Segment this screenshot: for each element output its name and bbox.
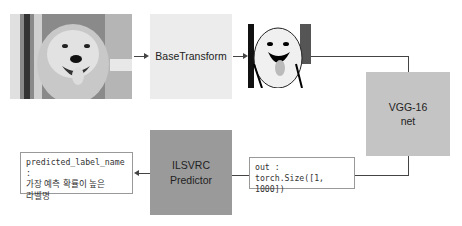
arrowhead-icon [144, 53, 149, 59]
vgg16-net-node: VGG-16 net [366, 72, 450, 156]
base-transform-label: BaseTransform [155, 49, 226, 63]
result-label-line1: predicted_label_name : [26, 157, 127, 179]
edge-vgg-to-output [354, 175, 409, 176]
predictor-label-line2: Predictor [170, 173, 212, 187]
transformed-dog-icon [248, 24, 311, 88]
result-label-line2: 가장 예측 확률이 높은 [26, 179, 127, 191]
edge-image-to-vgg [311, 56, 409, 57]
edge-predictor-to-result [139, 173, 150, 174]
arrowhead-icon [134, 170, 139, 176]
input-dog-image [10, 14, 132, 99]
vgg-label-line1: VGG-16 [389, 100, 428, 114]
ilsvrc-predictor-node: ILSVRC Predictor [150, 130, 232, 215]
transformed-dog-image [248, 24, 311, 88]
dog-photo-icon [10, 14, 132, 99]
edge-output-to-predictor [232, 175, 249, 176]
predictor-label-line1: ILSVRC [172, 158, 210, 172]
predicted-label-box: predicted_label_name : 가장 예측 확률이 높은 라벨명 [20, 152, 133, 194]
base-transform-node: BaseTransform [150, 14, 232, 99]
output-tensor-box: out : torch.Size([1, 1000]) [249, 157, 355, 189]
output-label-line2: torch.Size([1, 1000]) [255, 173, 349, 195]
output-label-line1: out : [255, 162, 349, 173]
result-label-line3: 라벨명 [26, 191, 127, 203]
edge-image-to-vgg-vertical [408, 56, 409, 72]
edge-vgg-to-output-vertical [408, 156, 409, 176]
vgg-label-line2: net [401, 114, 416, 128]
